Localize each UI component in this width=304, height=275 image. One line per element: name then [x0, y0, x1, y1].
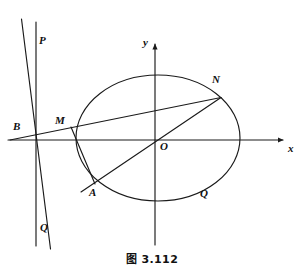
point-label-B: B — [13, 121, 20, 132]
point-label-N: N — [212, 74, 220, 85]
figure-container: P B M N A O Q Q x y 图 3.112 — [0, 0, 304, 275]
x-axis-label: x — [288, 143, 294, 154]
point-label-P: P — [39, 35, 46, 46]
point-label-A: A — [89, 187, 96, 198]
chord-M-A — [71, 127, 95, 184]
point-label-M: M — [55, 115, 65, 126]
figure-caption: 图 3.112 — [0, 250, 304, 266]
curve-label-Q: Q — [200, 188, 208, 199]
ellipse-curve — [76, 75, 240, 201]
y-axis-label: y — [143, 37, 148, 48]
point-label-Q: Q — [40, 222, 48, 233]
origin-label-O: O — [160, 141, 168, 152]
